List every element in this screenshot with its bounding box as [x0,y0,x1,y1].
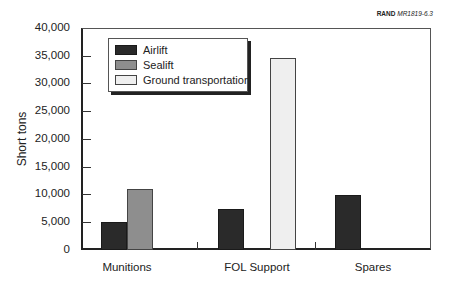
x-label-fol-support: FOL Support [202,261,312,273]
legend-label: Airlift [143,44,167,56]
y-tick-label: 40,000 [10,21,70,33]
y-tick-label: 15,000 [10,160,70,172]
credit-id: MR1819-6.3 [397,10,433,17]
y-tick [82,139,91,140]
category-divider [315,242,316,250]
y-tick [82,56,91,57]
y-tick-label: 35,000 [10,49,70,61]
y-tick [82,83,91,84]
legend-item-ground: Ground transportation [115,73,250,87]
y-tick-label: 20,000 [10,132,70,144]
category-divider [197,242,198,250]
y-tick [82,111,91,112]
legend-label: Ground transportation [143,74,250,86]
y-tick-label: 30,000 [10,76,70,88]
bar-spares-airlift [335,195,361,250]
bar-munitions-sealift [127,189,153,250]
y-tick-label: 10,000 [10,187,70,199]
legend: Airlift Sealift Ground transportation [108,38,248,92]
x-label-munitions: Munitions [72,261,182,273]
legend-swatch-airlift [115,45,137,55]
figure-credit: RAND MR1819-6.3 [377,10,433,17]
legend-item-sealift: Sealift [115,58,174,72]
bar-munitions-airlift [101,222,127,250]
legend-swatch-sealift [115,60,137,70]
legend-swatch-ground [115,75,137,85]
y-tick-label: 0 [10,243,70,255]
y-tick [82,167,91,168]
y-tick [82,222,91,223]
bar-fol-airlift [218,209,244,250]
y-tick-label: 25,000 [10,104,70,116]
y-tick-label: 5,000 [10,215,70,227]
y-tick [82,194,91,195]
legend-item-airlift: Airlift [115,43,167,57]
x-label-spares: Spares [318,261,428,273]
legend-label: Sealift [143,59,174,71]
credit-org: RAND [377,10,396,17]
bar-fol-ground [270,58,296,250]
